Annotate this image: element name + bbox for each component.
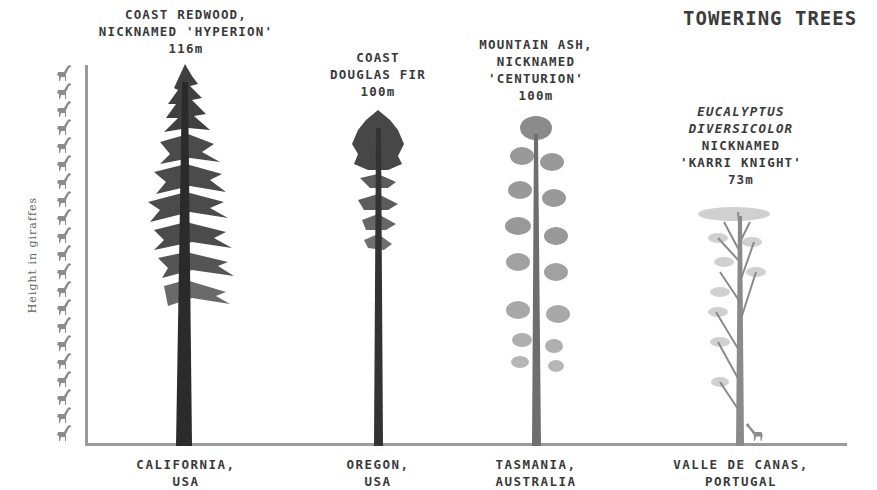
giraffe-icon	[53, 172, 73, 190]
y-axis-line	[85, 65, 88, 446]
giraffe-icon	[53, 352, 73, 370]
tree-height-value: 73m	[680, 171, 802, 188]
giraffe-icon	[53, 190, 73, 208]
location-label-redwood: CALIFORNIA, USA	[136, 456, 235, 490]
giraffe-icon	[53, 226, 73, 244]
location-label-mountain-ash: TASMANIA, AUSTRALIA	[495, 456, 576, 490]
location-line: CALIFORNIA,	[136, 456, 235, 473]
giraffe-icon	[53, 64, 73, 82]
giraffe-icon	[53, 262, 73, 280]
giraffe-icon	[53, 136, 73, 154]
tree-name-line: NICKNAMED 'HYPERION'	[99, 23, 274, 40]
giraffe-icon	[53, 82, 73, 100]
location-line: USA	[136, 473, 235, 490]
giraffe-icon	[53, 154, 73, 172]
giraffe-icon	[53, 370, 73, 388]
location-label-eucalyptus: VALLE DE CANAS, PORTUGAL	[673, 456, 808, 490]
location-label-douglas-fir: OREGON, USA	[346, 456, 409, 490]
location-line: VALLE DE CANAS,	[673, 456, 808, 473]
giraffe-icon	[53, 118, 73, 136]
giraffe-icon	[53, 334, 73, 352]
giraffe-icon	[53, 208, 73, 226]
giraffe-icon	[53, 424, 73, 442]
tree-name-line: 'KARRI KNIGHT'	[680, 154, 802, 171]
tree-name-line: DOUGLAS FIR	[330, 66, 426, 83]
location-line: OREGON,	[346, 456, 409, 473]
tree-label-eucalyptus: EUCALYPTUS DIVERSICOLOR NICKNAMED 'KARRI…	[680, 103, 802, 188]
giraffe-icon	[53, 244, 73, 262]
tree-name-line: 'CENTURION'	[479, 70, 592, 87]
douglas-fir-tree-icon	[348, 108, 408, 446]
location-line: PORTUGAL	[673, 473, 808, 490]
mountain-ash-tree-icon	[498, 114, 578, 446]
giraffe-icon	[53, 298, 73, 316]
chart-title: TOWERING TREES	[683, 7, 857, 29]
giraffe-scale-icon	[744, 421, 766, 443]
tree-name-line: COAST	[330, 49, 426, 66]
giraffe-icon	[53, 100, 73, 118]
giraffe-icon	[53, 406, 73, 424]
location-line: TASMANIA,	[495, 456, 576, 473]
tree-name-line: NICKNAMED	[479, 53, 592, 70]
tree-height-value: 100m	[330, 83, 426, 100]
giraffe-icon	[53, 388, 73, 406]
giraffe-scale	[53, 64, 75, 442]
tree-label-redwood: COAST REDWOOD, NICKNAMED 'HYPERION' 116m	[99, 6, 274, 57]
giraffe-icon	[53, 280, 73, 298]
y-axis-label: Height in giraffes	[26, 197, 39, 313]
tree-name-line: NICKNAMED	[680, 137, 802, 154]
tree-height-value: 116m	[99, 40, 274, 57]
location-line: USA	[346, 473, 409, 490]
tree-label-mountain-ash: MOUNTAIN ASH, NICKNAMED 'CENTURION' 100m	[479, 36, 592, 104]
redwood-tree-icon	[140, 62, 240, 446]
tree-name-line: COAST REDWOOD,	[99, 6, 274, 23]
giraffe-icon	[53, 316, 73, 334]
location-line: AUSTRALIA	[495, 473, 576, 490]
tree-height-value: 100m	[479, 87, 592, 104]
eucalyptus-tree-icon	[694, 202, 774, 446]
tree-label-douglas-fir: COAST DOUGLAS FIR 100m	[330, 49, 426, 100]
tree-name-line: EUCALYPTUS	[680, 103, 802, 120]
tree-name-line: MOUNTAIN ASH,	[479, 36, 592, 53]
tree-name-line: DIVERSICOLOR	[680, 120, 802, 137]
